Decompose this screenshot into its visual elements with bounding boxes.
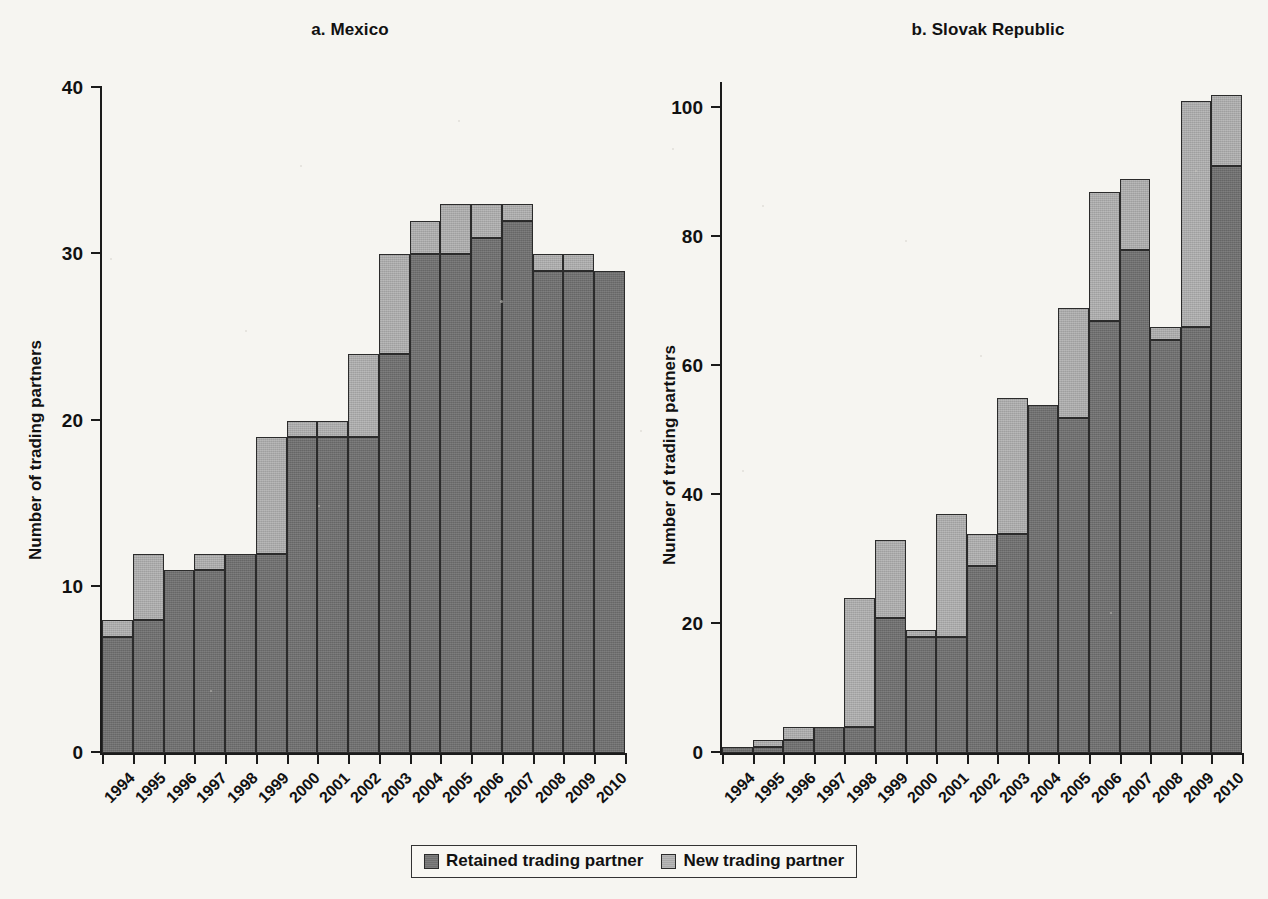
bar-segment-new[interactable]	[1089, 192, 1120, 321]
bar-segment-retained[interactable]	[753, 747, 784, 753]
bar-segment-new[interactable]	[1150, 327, 1181, 340]
bar-stack[interactable]	[936, 514, 967, 753]
bar-segment-new[interactable]	[410, 221, 441, 254]
bar-stack[interactable]	[1211, 95, 1242, 753]
bar-segment-retained[interactable]	[997, 534, 1028, 753]
bar-stack[interactable]	[317, 421, 348, 754]
bar-segment-new[interactable]	[440, 204, 471, 254]
bar-segment-retained[interactable]	[1211, 166, 1242, 753]
bar-segment-new[interactable]	[1211, 95, 1242, 166]
bar-stack[interactable]	[502, 204, 533, 753]
bar-stack[interactable]	[471, 204, 502, 753]
bar-stack[interactable]	[967, 534, 998, 753]
bar-stack[interactable]	[814, 727, 845, 753]
bar-segment-retained[interactable]	[225, 554, 256, 754]
bar-stack[interactable]	[256, 437, 287, 753]
bar-segment-retained[interactable]	[1120, 250, 1151, 753]
bar-segment-retained[interactable]	[410, 254, 441, 753]
bar-stack[interactable]	[164, 570, 195, 753]
bar-stack[interactable]	[1089, 192, 1120, 753]
bar-segment-new[interactable]	[287, 421, 318, 438]
bar-segment-retained[interactable]	[1150, 340, 1181, 753]
bar-segment-new[interactable]	[502, 204, 533, 221]
bar-segment-retained[interactable]	[194, 570, 225, 753]
bar-segment-retained[interactable]	[1089, 321, 1120, 753]
bar-segment-retained[interactable]	[102, 637, 133, 753]
bar-segment-new[interactable]	[844, 598, 875, 727]
bar-stack[interactable]	[533, 254, 564, 753]
legend-item-new[interactable]: New trading partner	[661, 851, 844, 871]
bar-segment-new[interactable]	[1120, 179, 1151, 250]
bar-segment-retained[interactable]	[256, 554, 287, 754]
bar-segment-retained[interactable]	[440, 254, 471, 753]
bar-stack[interactable]	[783, 727, 814, 753]
bar-stack[interactable]	[997, 398, 1028, 753]
bar-segment-retained[interactable]	[814, 727, 845, 753]
bar-stack[interactable]	[194, 554, 225, 754]
bar-segment-retained[interactable]	[722, 747, 753, 753]
bar-segment-retained[interactable]	[1058, 418, 1089, 754]
bar-stack[interactable]	[348, 354, 379, 753]
bar-segment-new[interactable]	[317, 421, 348, 438]
bar-segment-new[interactable]	[563, 254, 594, 271]
bar-segment-retained[interactable]	[348, 437, 379, 753]
bar-segment-retained[interactable]	[875, 618, 906, 753]
bar-stack[interactable]	[594, 271, 625, 753]
bar-segment-retained[interactable]	[936, 637, 967, 753]
bar-segment-new[interactable]	[967, 534, 998, 566]
bar-segment-retained[interactable]	[844, 727, 875, 753]
bar-segment-new[interactable]	[348, 354, 379, 437]
bar-segment-new[interactable]	[1181, 101, 1212, 327]
bar-stack[interactable]	[563, 254, 594, 753]
bar-segment-retained[interactable]	[379, 354, 410, 753]
bar-segment-new[interactable]	[936, 514, 967, 637]
bar-segment-new[interactable]	[471, 204, 502, 237]
bar-stack[interactable]	[440, 204, 471, 753]
bar-segment-retained[interactable]	[563, 271, 594, 753]
bar-segment-new[interactable]	[256, 437, 287, 553]
bar-segment-retained[interactable]	[133, 620, 164, 753]
bar-segment-new[interactable]	[783, 727, 814, 740]
bar-stack[interactable]	[1150, 327, 1181, 753]
bar-segment-retained[interactable]	[906, 637, 937, 753]
bar-segment-retained[interactable]	[967, 566, 998, 753]
bar-segment-retained[interactable]	[594, 271, 625, 753]
bar-segment-retained[interactable]	[471, 238, 502, 753]
bar-segment-new[interactable]	[753, 740, 784, 746]
bar-segment-new[interactable]	[875, 540, 906, 617]
bar-stack[interactable]	[1181, 101, 1212, 753]
bar-segment-retained[interactable]	[1028, 405, 1059, 753]
bar-stack[interactable]	[410, 221, 441, 753]
bar-segment-retained[interactable]	[287, 437, 318, 753]
x-axis-tick-label: 1995	[751, 769, 789, 807]
bar-stack[interactable]	[722, 747, 753, 753]
bar-stack[interactable]	[1028, 405, 1059, 753]
bar-stack[interactable]	[1058, 308, 1089, 753]
bar-stack[interactable]	[753, 740, 784, 753]
bar-stack[interactable]	[906, 630, 937, 753]
bar-stack[interactable]	[133, 554, 164, 754]
bar-stack[interactable]	[1120, 179, 1151, 753]
bar-stack[interactable]	[225, 554, 256, 754]
bar-segment-retained[interactable]	[533, 271, 564, 753]
bar-segment-new[interactable]	[906, 630, 937, 636]
bar-segment-new[interactable]	[533, 254, 564, 271]
bar-stack[interactable]	[102, 620, 133, 753]
bar-segment-retained[interactable]	[164, 570, 195, 753]
bar-segment-new[interactable]	[133, 554, 164, 621]
x-axis-tick	[533, 753, 535, 764]
bar-segment-new[interactable]	[379, 254, 410, 354]
bar-segment-new[interactable]	[102, 620, 133, 637]
bar-stack[interactable]	[287, 421, 318, 754]
legend-item-retained[interactable]: Retained trading partner	[424, 851, 643, 871]
bar-segment-new[interactable]	[1058, 308, 1089, 418]
bar-stack[interactable]	[875, 540, 906, 753]
bar-segment-retained[interactable]	[502, 221, 533, 753]
bar-segment-retained[interactable]	[783, 740, 814, 753]
bar-segment-new[interactable]	[194, 554, 225, 571]
bar-stack[interactable]	[379, 254, 410, 753]
bar-segment-retained[interactable]	[317, 437, 348, 753]
bar-segment-new[interactable]	[997, 398, 1028, 533]
bar-segment-retained[interactable]	[1181, 327, 1212, 753]
bar-stack[interactable]	[844, 598, 875, 753]
